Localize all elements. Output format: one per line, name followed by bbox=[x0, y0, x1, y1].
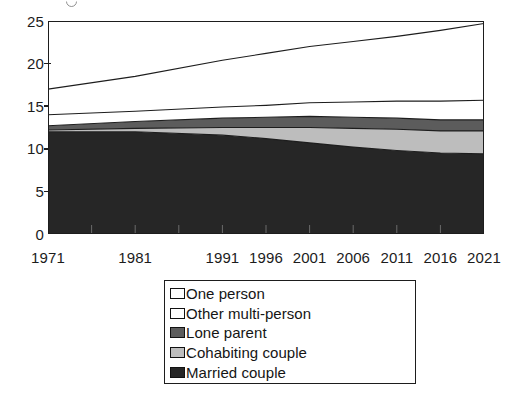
legend-item[interactable]: Cohabiting couple bbox=[170, 343, 415, 363]
y-tick-label: 5 bbox=[10, 184, 44, 199]
x-axis-labels: 197119811991199620012006201120162021 bbox=[0, 250, 522, 272]
legend-swatch-icon bbox=[170, 347, 185, 358]
legend-swatch-icon bbox=[170, 308, 185, 319]
y-tick-label: 20 bbox=[10, 56, 44, 71]
legend-item[interactable]: Married couple bbox=[170, 362, 415, 382]
x-axis-label-2021: 2021 bbox=[467, 250, 501, 266]
x-axis-label-1981: 1981 bbox=[118, 250, 152, 266]
x-axis-label-2011: 2011 bbox=[380, 250, 413, 266]
y-tick-label: 0 bbox=[10, 227, 44, 242]
legend-item[interactable]: Other multi-person bbox=[170, 304, 415, 324]
chart-figure: 2520151050 19711981199119962001200620112… bbox=[0, 0, 522, 398]
x-axis-label-2006: 2006 bbox=[336, 250, 370, 266]
plot-area bbox=[48, 21, 484, 234]
y-tick-label: 15 bbox=[10, 99, 44, 114]
x-axis-label-2016: 2016 bbox=[424, 250, 458, 266]
y-tick-label: 25 bbox=[10, 14, 44, 29]
legend-label: Other multi-person bbox=[186, 306, 311, 321]
legend-label: One person bbox=[186, 286, 265, 301]
legend-label: Lone parent bbox=[186, 325, 267, 340]
legend-swatch-icon bbox=[170, 367, 185, 378]
x-axis-label-1996: 1996 bbox=[249, 250, 283, 266]
x-axis-label-2001: 2001 bbox=[293, 250, 327, 266]
y-axis: 2520151050 bbox=[0, 0, 44, 256]
legend-label: Cohabiting couple bbox=[186, 345, 307, 360]
y-tick-label: 10 bbox=[10, 141, 44, 156]
legend-label: Married couple bbox=[186, 365, 286, 380]
legend-swatch-icon bbox=[170, 327, 185, 338]
plot-frame bbox=[48, 21, 484, 234]
legend-item[interactable]: One person bbox=[170, 284, 415, 304]
cropped-artifact-glyph bbox=[66, 0, 77, 7]
legend-swatch-icon bbox=[170, 288, 185, 299]
legend-item[interactable]: Lone parent bbox=[170, 323, 415, 343]
x-axis-label-1971: 1971 bbox=[31, 250, 65, 266]
x-axis-label-1991: 1991 bbox=[206, 250, 240, 266]
chart-legend: One personOther multi-personLone parentC… bbox=[164, 280, 416, 384]
